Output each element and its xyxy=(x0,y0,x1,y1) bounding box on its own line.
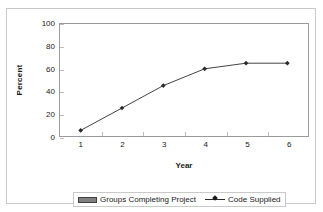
line-series-code-supplied xyxy=(60,24,308,136)
line-marker-swatch-icon xyxy=(205,195,225,204)
y-tick-label-100: 100 xyxy=(33,20,55,28)
x-tick-label-6: 6 xyxy=(287,141,291,149)
data-point-3 xyxy=(161,83,166,88)
x-tick-label-3: 3 xyxy=(162,141,166,149)
data-point-2 xyxy=(120,106,125,111)
y-tick-label-60: 60 xyxy=(33,66,55,74)
y-axis-title: Percent xyxy=(15,65,24,96)
y-tick-label-20: 20 xyxy=(33,111,55,119)
y-tick-label-80: 80 xyxy=(33,43,55,51)
x-tick-label-1: 1 xyxy=(79,141,83,149)
legend-item-2[interactable]: Code Supplied xyxy=(205,195,280,204)
y-tick-0 xyxy=(60,138,64,139)
x-tick-label-4: 4 xyxy=(204,141,208,149)
series-line-path xyxy=(81,63,288,130)
bar-swatch-icon xyxy=(78,197,97,203)
legend-label: Groups Completing Project xyxy=(100,195,196,204)
legend-item-1[interactable]: Groups Completing Project xyxy=(78,195,196,204)
y-tick-label-40: 40 xyxy=(33,88,55,96)
chart-figure: Percent Year 020406080100 123456 Groups … xyxy=(6,8,316,204)
x-tick-label-5: 5 xyxy=(245,141,249,149)
x-tick-label-2: 2 xyxy=(120,141,124,149)
data-point-6 xyxy=(285,61,290,66)
plot-area: 020406080100 123456 xyxy=(59,23,309,137)
chart-legend: Groups Completing ProjectCode Supplied xyxy=(73,192,286,207)
y-tick-label-0: 0 xyxy=(33,134,55,142)
legend-label: Code Supplied xyxy=(228,195,280,204)
data-point-5 xyxy=(244,61,249,66)
data-point-1 xyxy=(78,128,83,133)
data-point-4 xyxy=(202,66,207,71)
x-axis-title: Year xyxy=(176,161,193,170)
